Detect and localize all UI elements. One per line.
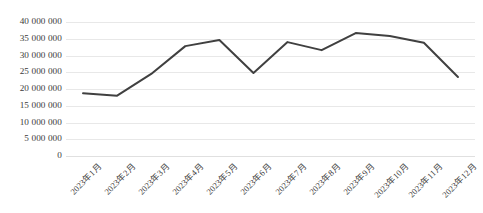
y-axis-tick-label: 15 000 000 [0, 101, 62, 110]
data-series-line [66, 22, 475, 156]
line-chart: 05 000 00010 000 00015 000 00020 000 000… [0, 0, 483, 213]
y-axis-tick-label: 30 000 000 [0, 51, 62, 60]
y-axis-tick-label: 5 000 000 [0, 134, 62, 143]
y-axis-tick-label: 20 000 000 [0, 84, 62, 93]
x-axis-tick-label: 2023年7月 [271, 160, 308, 197]
y-axis-tick-label: 40 000 000 [0, 17, 62, 26]
x-axis-tick-label: 2023年6月 [237, 160, 274, 197]
x-axis-tick-label: 2023年10月 [371, 160, 411, 200]
y-axis-tick-label: 0 [0, 151, 62, 160]
y-axis-tick-label: 25 000 000 [0, 67, 62, 76]
x-axis-tick-label: 2023年8月 [305, 160, 342, 197]
x-axis-tick-label: 2023年3月 [135, 160, 172, 197]
x-axis-tick-label: 2023年4月 [169, 160, 206, 197]
y-axis-tick-label: 10 000 000 [0, 118, 62, 127]
x-axis-tick-label: 2023年11月 [405, 160, 445, 200]
y-axis: 05 000 00010 000 00015 000 00020 000 000… [0, 22, 62, 156]
x-axis-tick-label: 2023年1月 [67, 160, 104, 197]
x-axis: 2023年1月2023年2月2023年3月2023年4月2023年5月2023年… [66, 156, 475, 213]
series-polyline [83, 33, 458, 96]
y-axis-tick-label: 35 000 000 [0, 34, 62, 43]
x-axis-tick-label: 2023年5月 [203, 160, 240, 197]
x-axis-tick-label: 2023年12月 [439, 160, 479, 200]
x-axis-tick-label: 2023年2月 [101, 160, 138, 197]
plot-area [66, 22, 475, 156]
